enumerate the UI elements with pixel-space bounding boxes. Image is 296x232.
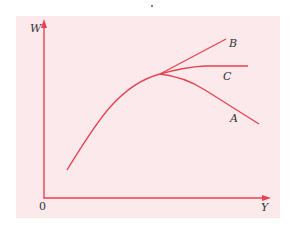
- y-axis-arrow-icon: [41, 19, 47, 28]
- x-axis-label: Y: [261, 202, 268, 213]
- curve-a-label: A: [230, 113, 238, 124]
- diagram-canvas: [0, 0, 296, 232]
- y-axis: [41, 19, 47, 199]
- curve-b: [160, 39, 226, 74]
- y-axis-label: W: [30, 23, 41, 34]
- curve-c-label: C: [223, 71, 231, 82]
- x-axis: [44, 195, 271, 201]
- curve-common: [67, 74, 160, 170]
- curve-b-label: B: [229, 38, 237, 49]
- origin-label: 0: [39, 201, 46, 212]
- curve-a: [160, 74, 259, 124]
